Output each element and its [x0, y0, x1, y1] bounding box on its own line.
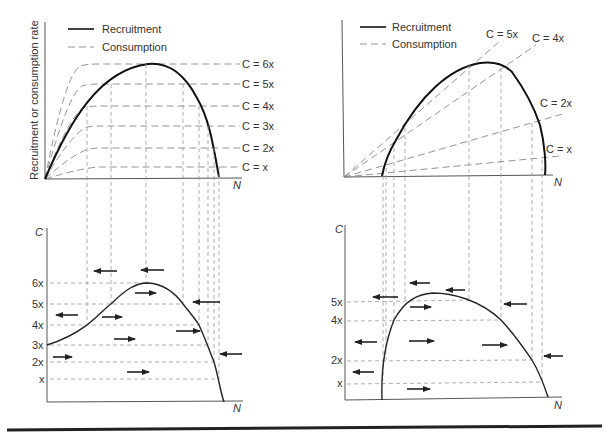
x-axis — [345, 397, 562, 400]
tick-4x: 4x — [331, 314, 343, 326]
tick-5x: 5x — [32, 298, 44, 310]
consumption-label-4x: C = 4x — [242, 100, 275, 112]
x-axis-label: N — [554, 176, 562, 188]
recruitment-curve — [382, 62, 545, 176]
y-axis-label: C — [335, 223, 343, 235]
y-axis-label: Recruitment or consumption rate — [28, 20, 40, 180]
x-axis-label: N — [233, 402, 241, 414]
isocline-curve — [47, 283, 224, 402]
x-axis — [45, 178, 242, 179]
tick-2x: 2x — [32, 356, 44, 368]
guides-right — [383, 64, 542, 382]
tick-x: x — [39, 373, 45, 385]
consumption-label-2x: C = 2x — [540, 97, 573, 109]
tick-6x: 6x — [32, 277, 44, 289]
tick-2x: 2x — [331, 354, 343, 366]
tick-4x: 4x — [32, 319, 44, 331]
panel-top-right: N Recruitment Consumption C = 5x C = 4x … — [342, 20, 573, 188]
legend-recruitment-label: Recruitment — [392, 21, 451, 33]
consumption-label-3x: C = 3x — [242, 120, 275, 132]
y-axis — [342, 20, 344, 177]
panel-bottom-right: C N 5x 4x 2x x — [331, 223, 563, 411]
consumption-label-x: C = x — [242, 161, 268, 173]
direction-arrows — [353, 283, 563, 389]
consumption-label-6x: C = 6x — [242, 58, 275, 70]
consumption-label-4x: C = 4x — [532, 32, 565, 44]
legend-consumption-label: Consumption — [102, 41, 167, 53]
panel-top-left: Recruitment or consumption rate N Recrui… — [28, 20, 275, 191]
consumption-label-5x: C = 5x — [486, 28, 519, 40]
y-axis-label: C — [35, 226, 43, 238]
consumption-label-5x: C = 5x — [242, 78, 275, 90]
tick-5x: 5x — [331, 296, 343, 308]
recruitment-curve — [45, 64, 219, 179]
x-axis — [47, 401, 243, 402]
consumption-label-x: C = x — [546, 143, 572, 155]
x-axis-label: N — [233, 179, 241, 191]
x-axis-label: N — [554, 399, 562, 411]
tick-3x: 3x — [32, 339, 44, 351]
figure-canvas: Recruitment or consumption rate N Recrui… — [0, 0, 607, 438]
direction-arrows — [53, 270, 242, 372]
tick-x: x — [337, 377, 343, 389]
panel-bottom-left: C N 6x 5x 4x 3x 2x x — [32, 226, 243, 414]
legend-consumption-label: Consumption — [392, 38, 457, 50]
legend-recruitment-label: Recruitment — [102, 23, 161, 35]
isocline-curve — [382, 293, 548, 400]
bottom-rule — [7, 426, 602, 430]
x-axis — [344, 175, 553, 177]
consumption-label-2x: C = 2x — [242, 142, 275, 154]
